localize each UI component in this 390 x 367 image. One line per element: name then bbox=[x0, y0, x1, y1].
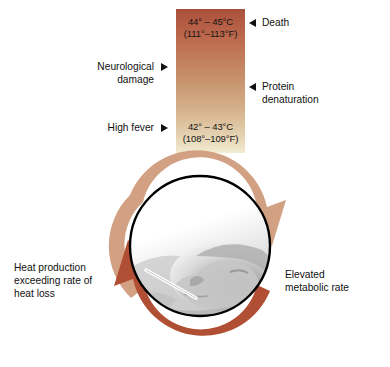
callout-death: Death bbox=[262, 17, 289, 30]
callout-neurological-damage: Neurological damage bbox=[28, 61, 154, 86]
high-fever-pointer-icon bbox=[161, 124, 168, 132]
callout-protein-denaturation-line2: denaturation bbox=[262, 94, 319, 107]
callout-heat-production: Heat production exceeding rate of heat l… bbox=[14, 262, 132, 300]
callout-heat-production-line1: Heat production bbox=[14, 262, 132, 275]
temperature-range-lower-fahrenheit: (108°–109°F) bbox=[169, 133, 252, 145]
callout-protein-denaturation: Protein denaturation bbox=[262, 81, 319, 106]
temperature-range-lower: 42° – 43°C (108°–109°F) bbox=[169, 121, 252, 144]
callout-protein-denaturation-line1: Protein bbox=[262, 81, 319, 94]
callout-neurological-damage-line2: damage bbox=[28, 74, 154, 87]
temperature-range-upper: 44° – 45°C (111°–113°F) bbox=[169, 16, 252, 39]
protein-denaturation-pointer-icon bbox=[249, 83, 256, 91]
temperature-range-upper-fahrenheit: (111°–113°F) bbox=[169, 28, 252, 40]
callout-high-fever: High fever bbox=[52, 122, 154, 135]
temperature-range-upper-celsius: 44° – 45°C bbox=[169, 16, 252, 28]
death-pointer-icon bbox=[249, 19, 256, 27]
neurological-damage-pointer-icon bbox=[161, 63, 168, 71]
callout-elevated-metabolic-rate-line1: Elevated bbox=[285, 269, 385, 282]
temperature-range-lower-celsius: 42° – 43°C bbox=[169, 121, 252, 133]
callout-heat-production-line2: exceeding rate of bbox=[14, 275, 132, 288]
callout-heat-production-line3: heat loss bbox=[14, 288, 132, 301]
callout-elevated-metabolic-rate-line2: metabolic rate bbox=[285, 282, 385, 295]
fever-positive-feedback-figure: 44° – 45°C (111°–113°F) 42° – 43°C (108°… bbox=[0, 0, 390, 367]
feedback-cycle-diagram bbox=[100, 148, 300, 344]
callout-neurological-damage-line1: Neurological bbox=[28, 61, 154, 74]
callout-elevated-metabolic-rate: Elevated metabolic rate bbox=[285, 269, 385, 295]
